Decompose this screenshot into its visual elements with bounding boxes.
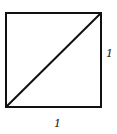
diagonal bbox=[6, 13, 101, 107]
bottom-side-label: 1 bbox=[54, 117, 61, 130]
right-side-label: 1 bbox=[106, 47, 113, 60]
unit-square-diagram: 1 1 bbox=[0, 0, 117, 134]
